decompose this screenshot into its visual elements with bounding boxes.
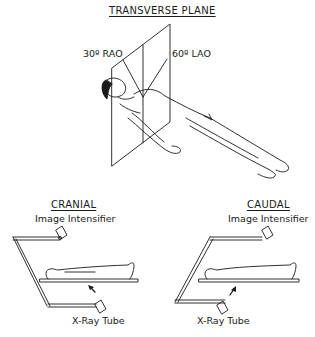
cranial-x-ray-tube [95,300,106,313]
cranial-table-with-patient [40,263,138,282]
angiography-projection-diagram: TRANSVERSE PLANE 30º RAO 60º LAO CRANIAL… [0,0,315,337]
lao-angle-label: 60º LAO [172,49,211,59]
cranial-image-intensifier [56,226,67,240]
caudal-table-with-patient [199,263,299,282]
patient-supine-figure [102,78,289,178]
cranial-x-ray-tube-label: X-Ray Tube [72,316,125,326]
cranial-arrow [88,285,95,292]
caudal-image-intensifier-label: Image Intensifier [228,214,309,224]
caudal-x-ray-tube-label: X-Ray Tube [197,316,250,326]
lao-projection-line [143,59,167,97]
transverse-plane [112,24,170,166]
rao-angle-label: 30º RAO [83,49,123,59]
diagram-drawing [0,0,315,337]
cranial-image-intensifier-label: Image Intensifier [35,214,116,224]
transverse-plane-title: TRANSVERSE PLANE [109,6,216,16]
caudal-arrow [230,286,236,295]
caudal-title: CAUDAL [247,200,290,210]
rao-projection-line [123,60,143,97]
cranial-title: CRANIAL [51,200,96,210]
caudal-image-intensifier [262,226,273,239]
